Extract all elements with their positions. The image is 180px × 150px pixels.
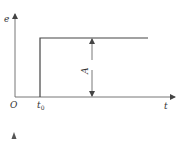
step-diagram: e O t0 t A <box>0 0 180 150</box>
step-time-subscript: 0 <box>41 104 45 111</box>
origin-label: O <box>10 100 18 110</box>
step-time-label: t0 <box>37 100 45 111</box>
amplitude-label: A <box>80 67 90 75</box>
y-axis-label: e <box>4 14 9 24</box>
x-axis-label: t <box>164 101 168 111</box>
step-signal <box>40 38 148 97</box>
arrow-fragment-icon <box>12 132 17 139</box>
